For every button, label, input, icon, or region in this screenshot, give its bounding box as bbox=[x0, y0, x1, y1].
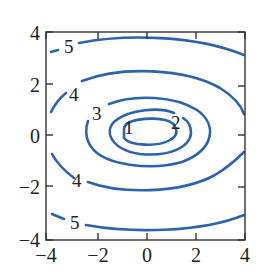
level-label-5-upper: 5 bbox=[64, 36, 74, 57]
contour-lines bbox=[51, 38, 244, 231]
contour-level-4-left bbox=[51, 93, 66, 112]
axis-ticks bbox=[46, 32, 245, 240]
y-tick-2: 2 bbox=[30, 74, 40, 96]
contour-level-5-lower bbox=[52, 214, 244, 230]
y-tick-0: 0 bbox=[30, 125, 40, 147]
x-tick-4: 4 bbox=[240, 244, 250, 266]
x-tick-0: 0 bbox=[142, 244, 152, 266]
level-label-1: 1 bbox=[124, 117, 134, 138]
contour-plot: 1 2 3 4 4 5 5 4 2 0 −2 −4 −4 −2 0 2 4 bbox=[0, 0, 264, 279]
contour-level-5-upper bbox=[51, 38, 244, 55]
level-label-5-lower: 5 bbox=[70, 212, 80, 233]
level-label-3: 3 bbox=[92, 103, 102, 124]
y-tick-neg2: −2 bbox=[19, 176, 40, 198]
level-label-4-lower: 4 bbox=[72, 170, 82, 191]
x-tick-2: 2 bbox=[191, 244, 201, 266]
x-tick-neg2: −2 bbox=[87, 244, 108, 266]
level-label-4-upper: 4 bbox=[69, 84, 79, 105]
x-tick-neg4: −4 bbox=[35, 244, 56, 266]
plot-frame bbox=[46, 32, 245, 240]
contour-level-4-upper bbox=[82, 71, 244, 114]
y-tick-4: 4 bbox=[30, 22, 40, 44]
level-label-2: 2 bbox=[171, 112, 181, 133]
